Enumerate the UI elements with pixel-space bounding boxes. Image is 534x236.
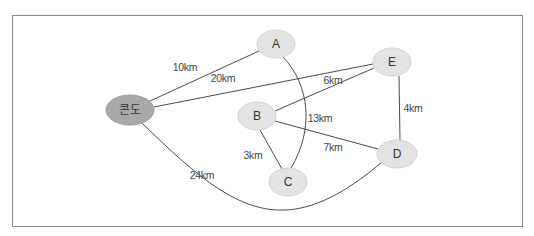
edge-label-b-e: 6km xyxy=(324,74,343,86)
edge-label-condo-d: 24km xyxy=(190,169,215,181)
node-c: C xyxy=(269,168,307,196)
node-e: E xyxy=(373,48,411,76)
edge-b-c xyxy=(260,130,282,169)
node-label-a: A xyxy=(272,37,280,51)
node-condo: 콘도 xyxy=(106,95,154,125)
edge-label-e-d: 4km xyxy=(404,102,423,114)
node-b: B xyxy=(238,102,276,130)
node-a: A xyxy=(257,30,295,58)
node-label-b: B xyxy=(253,109,261,123)
edge-label-b-d: 7km xyxy=(324,141,343,153)
edge-label-condo-a: 10km xyxy=(173,61,198,73)
node-label-d: D xyxy=(393,147,402,161)
edge-label-b-c: 3km xyxy=(244,149,263,161)
node-label-condo: 콘도 xyxy=(119,103,141,117)
edge-e-d xyxy=(399,76,400,140)
edge-condo-a xyxy=(150,51,259,101)
edge-condo-d xyxy=(142,123,382,210)
edge-a-c xyxy=(283,57,306,168)
node-d: D xyxy=(377,140,417,168)
node-label-c: C xyxy=(284,175,293,189)
edge-label-condo-e: 20km xyxy=(211,72,236,84)
node-label-e: E xyxy=(388,55,396,69)
route-graph: 10km 20km 6km 13km 4km 7km 3km 24km 콘도 A… xyxy=(0,0,534,236)
edge-label-a-c: 13km xyxy=(308,112,333,124)
